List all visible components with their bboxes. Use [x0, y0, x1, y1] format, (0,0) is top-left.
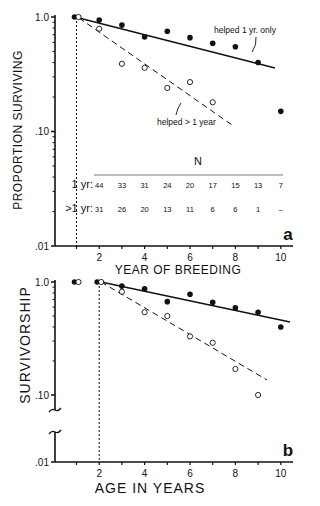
n-table-cell: 31	[95, 205, 103, 214]
n-table-cell: 15	[231, 181, 239, 190]
x-axis-label: YEAR OF BREEDING	[115, 263, 242, 277]
n-table-cell: 6	[211, 205, 215, 214]
y-axis-label: SURVIVORSHIP	[17, 286, 33, 404]
n-table-cell: 17	[209, 181, 217, 190]
panel-label: b	[283, 441, 293, 460]
data-point-filled	[255, 309, 261, 315]
y-tick-label: 1.0	[35, 12, 49, 23]
data-point-open	[256, 392, 261, 397]
x-tick-label: 6	[187, 252, 193, 263]
data-point-open	[233, 366, 238, 371]
data-point-open	[119, 289, 124, 294]
fit-line-helped-more	[79, 18, 232, 125]
data-point-filled	[255, 60, 261, 66]
figure: 1.0.10.01246810YEAR OF BREEDINGPROPORTIO…	[0, 0, 320, 506]
data-point-open	[187, 80, 192, 85]
fit-line-helped-more	[101, 282, 267, 380]
n-table-cell: 20	[186, 181, 194, 190]
x-tick-label: 6	[187, 468, 193, 479]
data-point-filled	[278, 324, 284, 330]
y-tick-label: 1.0	[35, 277, 49, 288]
data-point-open	[142, 310, 147, 315]
annotation-helped-1yr: helped 1 yr. only	[214, 25, 277, 35]
data-point-open	[165, 85, 170, 90]
panel-label: a	[283, 225, 293, 244]
x-tick-label: 2	[96, 252, 102, 263]
n-table-cell: 13	[254, 181, 262, 190]
data-point-filled	[233, 44, 239, 50]
n-table-cell: 6	[233, 205, 237, 214]
n-table-cell: 26	[118, 205, 126, 214]
n-table-cell: 31	[140, 181, 148, 190]
n-table-cell: 20	[140, 205, 148, 214]
n-table-row-label: >1 yr:	[65, 202, 93, 214]
data-point-open	[76, 279, 81, 284]
data-point-open	[119, 61, 124, 66]
n-table-cell: 24	[163, 181, 171, 190]
data-point-open	[210, 100, 215, 105]
annotation-arrow	[176, 103, 181, 115]
n-table-cell: –	[279, 205, 284, 214]
data-point-open	[76, 14, 81, 19]
x-tick-label: 8	[233, 252, 239, 263]
data-point-filled	[187, 35, 193, 41]
data-point-filled	[210, 40, 216, 46]
n-table-cell: 13	[163, 205, 171, 214]
data-point-filled	[233, 305, 239, 311]
y-tick-label: .10	[35, 126, 49, 137]
data-point-filled	[142, 286, 148, 292]
panel-a: 1.0.10.01246810YEAR OF BREEDINGPROPORTIO…	[11, 12, 293, 278]
data-point-filled	[165, 299, 171, 305]
data-point-filled	[142, 34, 148, 40]
y-tick-label: .01	[35, 241, 49, 252]
x-axis-label: AGE IN YEARS	[95, 480, 206, 496]
data-point-open	[97, 26, 102, 31]
y-axis-label: PROPORTION SURVIVING	[11, 50, 25, 210]
n-table-cell: 1	[256, 205, 260, 214]
panel-b: 1.0.10.01246810AGE IN YEARSSURVIVORSHIPb	[17, 277, 293, 497]
fit-line-helped-1yr	[101, 282, 290, 322]
x-tick-label: 10	[275, 468, 287, 479]
n-table-cell: 11	[186, 205, 194, 214]
data-point-filled	[119, 22, 125, 28]
data-point-open	[187, 334, 192, 339]
x-tick-label: 4	[142, 252, 148, 263]
data-point-open	[210, 340, 215, 345]
y-tick-label: .01	[35, 457, 49, 468]
data-point-filled	[165, 29, 171, 35]
n-table-header: N	[194, 155, 202, 167]
annotation-arrow	[252, 37, 256, 52]
data-point-open	[99, 279, 104, 284]
x-tick-label: 10	[275, 252, 287, 263]
data-point-open	[142, 65, 147, 70]
n-table-cell: 44	[95, 181, 103, 190]
y-tick-label: .10	[35, 390, 49, 401]
x-tick-label: 2	[96, 468, 102, 479]
data-point-open	[165, 313, 170, 318]
x-tick-label: 8	[233, 468, 239, 479]
n-table-cell: 7	[279, 181, 283, 190]
data-point-filled	[187, 291, 193, 297]
data-point-filled	[210, 300, 216, 306]
x-tick-label: 4	[142, 468, 148, 479]
data-point-filled	[96, 17, 102, 23]
axis-break-gap	[52, 410, 58, 432]
annotation-helped-more: helped > 1 year	[157, 117, 216, 127]
n-table-cell: 33	[118, 181, 126, 190]
data-point-filled	[278, 109, 284, 115]
n-table-row-label: 1 yr:	[72, 178, 93, 190]
data-point-filled	[119, 283, 125, 289]
